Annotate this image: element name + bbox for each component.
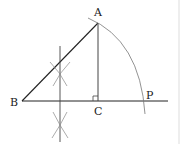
point-label-p: P bbox=[146, 89, 154, 102]
right-border bbox=[178, 0, 180, 144]
point-label-c: C bbox=[94, 105, 102, 118]
construction-arc bbox=[88, 18, 145, 114]
point-label-b: B bbox=[10, 96, 18, 109]
geometry-diagram: A B C P bbox=[0, 0, 180, 144]
right-angle-marker bbox=[93, 96, 98, 101]
point-label-a: A bbox=[93, 6, 103, 19]
